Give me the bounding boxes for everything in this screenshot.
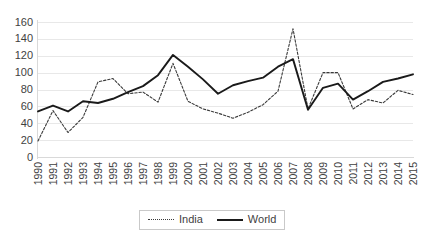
x-tick-label: 1997 [137,162,149,185]
x-tick-label: 2014 [392,162,404,185]
x-tick-label: 2009 [317,162,329,185]
x-tick-label: 2000 [182,162,194,185]
legend-label: World [248,213,277,226]
x-tick-label: 1994 [92,162,104,185]
x-tick-label: 2005 [257,162,269,185]
series-line-world [38,55,413,112]
x-tick-label: 2007 [287,162,299,185]
legend-swatch-dotted-icon [148,219,174,220]
line-chart: 160 140 120 100 80 60 40 20 0 1990199119… [0,0,423,237]
x-tick-label: 2008 [302,162,314,185]
chart-legend: India World [139,210,285,230]
x-tick-label: 2001 [197,162,209,185]
x-tick-label: 2006 [272,162,284,185]
x-tick-label: 1992 [62,162,74,185]
legend-entry-india[interactable]: India [148,213,203,226]
x-tick-label: 1993 [77,162,89,185]
series-line-india [38,29,413,141]
series-layer [0,0,423,237]
x-tick-label: 2012 [362,162,374,185]
x-tick-label: 1990 [32,162,44,185]
legend-label: India [179,213,203,226]
x-tick-label: 2013 [377,162,389,185]
x-tick-label: 1996 [122,162,134,185]
x-tick-label: 1995 [107,162,119,185]
legend-swatch-solid-icon [217,219,243,221]
legend-entry-world[interactable]: World [217,213,277,226]
x-tick-label: 1999 [167,162,179,185]
x-tick-label: 2003 [227,162,239,185]
x-tick-label: 2004 [242,162,254,185]
x-tick-label: 2010 [332,162,344,185]
x-tick-label: 1998 [152,162,164,185]
x-tick-label: 2002 [212,162,224,185]
x-tick-label: 2015 [407,162,419,185]
x-tick-label: 2011 [347,162,359,185]
x-tick-label: 1991 [47,162,59,185]
